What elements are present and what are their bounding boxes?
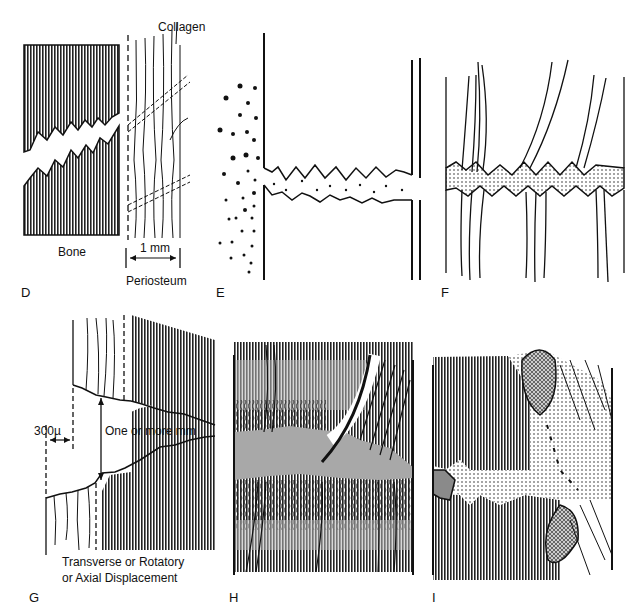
scale-label: 1 mm: [140, 241, 170, 255]
figure-canvas: [0, 0, 642, 611]
panel-label-d: D: [21, 285, 30, 300]
panel-label-g: G: [29, 590, 39, 605]
panel-label-f: F: [441, 285, 449, 300]
caption-line-1: Transverse or Rotatory: [62, 555, 184, 569]
bone-label: Bone: [58, 245, 86, 259]
caption-line-2: or Axial Displacement: [62, 571, 177, 585]
one-or-more-mm-label: One or more mm: [105, 424, 196, 438]
gap-300u-label: 300µ: [34, 424, 61, 438]
panel-label-h: H: [229, 590, 238, 605]
collagen-label: Collagen: [158, 20, 205, 34]
panel-i-drawing: [433, 350, 612, 580]
panel-d-drawing: [24, 22, 190, 268]
panel-label-e: E: [216, 285, 225, 300]
panel-e-drawing: [218, 33, 421, 280]
panel-f-drawing: [446, 60, 624, 282]
panel-label-i: I: [432, 590, 436, 605]
panel-h-drawing: [234, 342, 414, 575]
periosteum-label: Periosteum: [126, 274, 187, 288]
